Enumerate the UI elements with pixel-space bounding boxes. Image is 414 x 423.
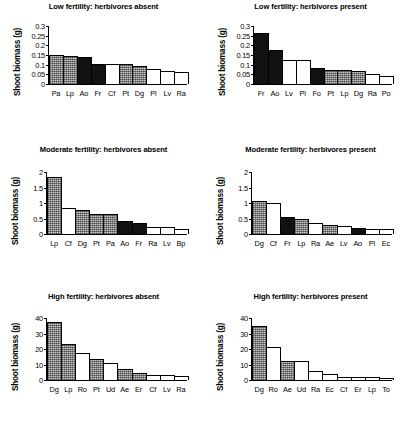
x-tick-label: Ec <box>379 239 393 248</box>
bar <box>146 69 161 84</box>
y-axis-label: Shoot biomass (g) <box>218 28 227 96</box>
bar <box>119 64 134 84</box>
x-tick-label: Fr <box>132 239 146 248</box>
y-tick-mark <box>249 349 252 350</box>
y-tick-label: 1.5 <box>225 183 248 192</box>
bar <box>282 60 297 84</box>
bar <box>365 74 380 84</box>
y-tick-mark <box>44 219 47 220</box>
bar <box>266 203 281 234</box>
bar <box>252 201 267 234</box>
y-tick-mark <box>46 84 49 85</box>
y-tick-mark <box>44 188 47 189</box>
bar <box>308 223 323 234</box>
x-tick-label: Pt <box>89 239 103 248</box>
y-tick-mark <box>44 172 47 173</box>
y-tick-label: 0.15 <box>227 51 250 60</box>
x-tick-label: Fr <box>91 89 105 98</box>
x-tick-label: Lv <box>282 89 296 98</box>
x-axis-labels: PaLpAoFrCfPtDgPlLvRa <box>49 89 188 98</box>
x-tick-label: Lv <box>337 239 351 248</box>
x-tick-label: Cf <box>105 89 119 98</box>
bar <box>47 322 62 380</box>
x-tick-label: Ra <box>308 239 322 248</box>
x-tick-label: Pt <box>89 385 103 394</box>
y-tick-mark <box>46 55 49 56</box>
y-tick-label: 2 <box>225 168 248 177</box>
x-axis-line <box>253 84 392 85</box>
bar <box>310 68 325 84</box>
y-tick-mark <box>44 318 47 319</box>
bar <box>75 353 90 380</box>
x-tick-label: Ro <box>75 385 89 394</box>
bar <box>160 227 175 234</box>
chart-panel-4: Moderate fertility: herbivores presentSh… <box>0 0 414 423</box>
bar <box>174 229 189 234</box>
y-tick-mark <box>251 74 254 75</box>
chart-title: Low fertility: herbivores present <box>207 2 414 11</box>
x-tick-label: Ro <box>266 385 280 394</box>
x-tick-label: Ae <box>322 239 336 248</box>
y-tick-label: 0 <box>20 376 43 385</box>
bar <box>351 71 366 84</box>
x-tick-label: Bp <box>174 239 188 248</box>
y-tick-mark <box>44 365 47 366</box>
y-axis-label: Shoot biomass (g) <box>13 28 22 96</box>
y-tick-label: 0.3 <box>22 22 45 31</box>
bar <box>324 70 339 84</box>
y-tick-label: 0.25 <box>22 31 45 40</box>
x-tick-label: Ra <box>308 385 322 394</box>
bar <box>379 229 394 234</box>
y-tick-label: 20 <box>20 345 43 354</box>
bar <box>75 210 90 234</box>
bar <box>268 50 283 84</box>
bar <box>146 375 161 380</box>
y-tick-mark <box>249 203 252 204</box>
y-tick-label: 40 <box>225 314 248 323</box>
y-axis-line <box>46 172 47 234</box>
x-tick-label: Ra <box>365 89 379 98</box>
y-tick-mark <box>251 55 254 56</box>
y-tick-label: 2 <box>20 168 43 177</box>
x-tick-label: Fr <box>254 89 268 98</box>
bar <box>91 64 106 84</box>
y-tick-label: 10 <box>20 360 43 369</box>
y-tick-mark <box>249 318 252 319</box>
y-tick-mark <box>44 234 47 235</box>
bar-series <box>252 172 393 234</box>
bar <box>132 223 147 234</box>
bar <box>49 55 64 84</box>
bar <box>252 326 267 380</box>
bar <box>322 374 337 380</box>
figure-panel-grid: Low fertility: herbivores absentShoot bi… <box>0 0 414 423</box>
x-tick-label: Ra <box>146 239 160 248</box>
y-tick-label: 0.1 <box>22 60 45 69</box>
chart-title: High fertility: herbivores present <box>207 292 414 301</box>
x-tick-label: Pl <box>146 89 160 98</box>
bar <box>89 214 104 234</box>
x-tick-label: Lp <box>365 385 379 394</box>
x-tick-label: To <box>379 385 393 394</box>
x-tick-label: Cf <box>266 239 280 248</box>
y-axis-label: Shoot biomass (g) <box>216 177 225 245</box>
x-tick-label: Pa <box>103 239 117 248</box>
y-axis-line <box>251 318 252 380</box>
bar <box>174 376 189 380</box>
y-tick-label: 0.25 <box>227 31 250 40</box>
bar <box>280 217 295 234</box>
y-tick-label: 0.15 <box>22 51 45 60</box>
chart-title: Moderate fertility: herbivores present <box>207 145 414 154</box>
bar <box>146 227 161 234</box>
x-axis-line <box>46 380 187 381</box>
x-tick-label: Lp <box>337 89 351 98</box>
x-tick-label: Lp <box>294 239 308 248</box>
bar-series <box>252 318 393 380</box>
bar-series <box>49 26 188 84</box>
x-tick-label: Dg <box>252 239 266 248</box>
x-tick-label: Lp <box>63 89 77 98</box>
x-tick-label: Cf <box>61 239 75 248</box>
y-tick-label: 0.2 <box>22 41 45 50</box>
x-tick-label: Ud <box>294 385 308 394</box>
y-tick-label: 1 <box>225 199 248 208</box>
x-tick-label: Ae <box>280 385 294 394</box>
